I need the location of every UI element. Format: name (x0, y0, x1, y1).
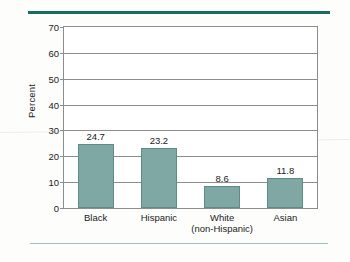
x-axis-category-label-line: Black (84, 212, 107, 223)
x-axis-category-label-line: (non-Hispanic) (191, 223, 253, 234)
bar-value-label: 8.6 (216, 173, 229, 184)
bar[interactable] (78, 144, 114, 208)
bar[interactable] (204, 186, 240, 208)
y-axis-tick-label: 60 (48, 47, 59, 58)
bars-group: 24.7Black23.2Hispanic8.6White(non-Hispan… (64, 27, 317, 208)
bar-slot: 24.7Black (64, 27, 127, 208)
y-axis-tick-label: 10 (48, 177, 59, 188)
y-axis-tick-label: 30 (48, 125, 59, 136)
top-accent-rule (28, 11, 330, 14)
x-axis-category-label-line: White (210, 212, 234, 223)
bottom-accent-rule (30, 243, 328, 244)
y-axis-tick-label: 70 (48, 22, 59, 33)
bar-value-label: 23.2 (150, 135, 169, 146)
y-axis-tick-label: 50 (48, 73, 59, 84)
x-axis-category-label: Hispanic (141, 212, 177, 223)
y-axis-label: Percent (26, 84, 37, 118)
x-axis-category-label: Black (84, 212, 107, 223)
y-axis-tick-mark (60, 208, 64, 209)
y-axis-tick-label: 40 (48, 99, 59, 110)
y-axis-tick-label: 0 (54, 203, 59, 214)
x-axis-category-label: White(non-Hispanic) (191, 212, 253, 234)
x-axis-category-label: Asian (273, 212, 297, 223)
bar-chart-figure: Percent 010203040506070 24.7Black23.2His… (0, 0, 350, 262)
bar-slot: 8.6White(non-Hispanic) (191, 27, 254, 208)
y-axis-tick-label: 20 (48, 151, 59, 162)
bar-slot: 23.2Hispanic (127, 27, 190, 208)
plot-area: 010203040506070 24.7Black23.2Hispanic8.6… (63, 26, 318, 209)
bar-value-label: 24.7 (86, 131, 105, 142)
bar[interactable] (141, 148, 177, 208)
bar[interactable] (267, 178, 303, 209)
bar-slot: 11.8Asian (254, 27, 317, 208)
x-axis-category-label-line: Asian (273, 212, 297, 223)
x-axis-category-label-line: Hispanic (141, 212, 177, 223)
bar-value-label: 11.8 (276, 165, 294, 176)
